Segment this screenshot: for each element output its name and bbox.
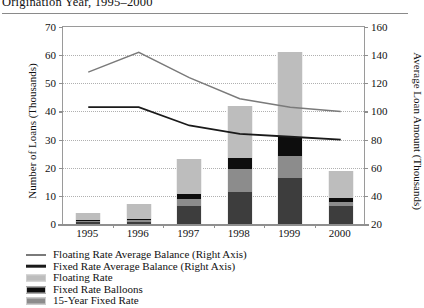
- y-tick-left: [59, 196, 63, 197]
- y-tick-right: [364, 27, 368, 28]
- y-tick-label-right: 20: [371, 218, 382, 230]
- y-tick-label-right: 140: [371, 49, 388, 61]
- y-tick-label-left: 70: [45, 21, 56, 33]
- x-axis-labels: 199519961997199819992000: [62, 227, 365, 243]
- plot-area: [62, 27, 365, 224]
- y-tick-label-right: 60: [371, 162, 382, 174]
- y-tick-label-right: 100: [371, 105, 388, 117]
- line-layer: [63, 27, 366, 224]
- x-tick: [163, 224, 164, 228]
- y-tick-label-right: 120: [371, 77, 388, 89]
- y-tick-right: [364, 140, 368, 141]
- y-tick-label-left: 0: [51, 218, 57, 230]
- y-tick-right: [364, 196, 368, 197]
- legend-label: 15-Year Fixed Rate: [53, 294, 139, 306]
- y-tick-right: [364, 83, 368, 84]
- x-tick: [214, 224, 215, 228]
- y-axis-right-labels: 20406080100120140160: [371, 27, 405, 224]
- y-tick-label-left: 20: [45, 162, 56, 174]
- y-axis-left-labels: 010203040506070: [22, 27, 56, 224]
- y-tick-label-left: 10: [45, 190, 56, 202]
- x-tick-label: 1999: [278, 227, 300, 239]
- line-series: [88, 52, 341, 111]
- x-tick-label: 1996: [127, 227, 149, 239]
- x-tick: [113, 224, 114, 228]
- line-series: [88, 107, 341, 139]
- y-tick-label-left: 60: [45, 49, 56, 61]
- legend-label: Floating Rate Average Balance (Right Axi…: [53, 248, 247, 260]
- legend-line-swatch: [26, 254, 46, 256]
- y-tick-label-right: 40: [371, 190, 382, 202]
- x-tick: [315, 224, 316, 228]
- legend-box-swatch: [26, 274, 46, 281]
- page-title: Origination Year, 1995–2000: [2, 0, 153, 10]
- y-tick-label-right: 80: [371, 134, 382, 146]
- y-tick-right: [364, 168, 368, 169]
- x-tick: [264, 224, 265, 228]
- legend-label: Floating Rate: [53, 271, 113, 283]
- y-tick-left: [59, 140, 63, 141]
- legend-box-swatch: [26, 286, 46, 293]
- y-tick-left: [59, 111, 63, 112]
- y-tick-label-left: 30: [45, 134, 56, 146]
- legend-label: Fixed Rate Average Balance (Right Axis): [53, 260, 235, 272]
- legend-label: Fixed Rate Balloons: [53, 283, 143, 295]
- y-tick-left: [59, 168, 63, 169]
- y-tick-left: [59, 83, 63, 84]
- x-tick-label: 1995: [76, 227, 98, 239]
- y-tick-right: [364, 55, 368, 56]
- y-tick-label-right: 160: [371, 21, 388, 33]
- y-tick-left: [59, 27, 63, 28]
- y-tick-label-left: 40: [45, 105, 56, 117]
- x-tick-label: 2000: [329, 227, 351, 239]
- chart-title-bar: Origination Year, 1995–2000: [0, 0, 415, 14]
- y-tick-label-left: 50: [45, 77, 56, 89]
- chart-legend: Floating Rate Average Balance (Right Axi…: [26, 249, 356, 307]
- y-axis-right-title: Average Loan Amount (Thousands): [412, 26, 424, 236]
- legend-line-swatch: [26, 265, 46, 268]
- title-divider: [2, 13, 408, 14]
- y-tick-left: [59, 55, 63, 56]
- legend-item[interactable]: 15-Year Fixed Rate: [26, 295, 356, 307]
- y-tick-right: [364, 111, 368, 112]
- legend-box-swatch: [26, 298, 46, 305]
- x-tick-label: 1998: [228, 227, 250, 239]
- x-tick-label: 1997: [177, 227, 199, 239]
